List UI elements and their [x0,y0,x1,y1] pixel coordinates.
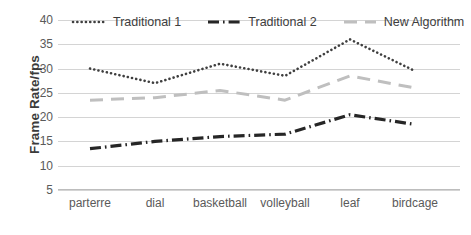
x-axis-tick-labels: parterredialbasketballvolleyballleafbird… [58,196,460,220]
dotted-line-swatch [72,18,106,26]
x-tick-label: parterre [69,196,111,210]
legend-label: New Algorithm [384,15,465,29]
plot-area [58,20,460,190]
y-tick-label: 15 [1,134,53,148]
legend-spacer [317,22,343,23]
legend-label: Traditional 2 [248,15,316,29]
y-tick-label: 25 [1,86,53,100]
legend-label: Traditional 1 [113,15,181,29]
y-tick-label: 35 [1,37,53,51]
y-axis-tick-labels: 403530252015105 [0,0,53,235]
legend-item[interactable]: Traditional 1 [72,15,181,29]
series-line [90,115,415,149]
y-tick-label: 20 [1,110,53,124]
y-tick-label: 5 [1,183,53,197]
series-line [90,76,415,100]
line-chart: Frame Rate/fps 403530252015105 parterred… [0,0,471,235]
series-lines [58,20,460,190]
y-tick-label: 10 [1,159,53,173]
legend-spacer [181,22,207,23]
x-tick-label: dial [146,196,165,210]
y-tick-label: 30 [1,62,53,76]
x-tick-label: volleyball [260,196,309,210]
legend-item[interactable]: New Algorithm [343,15,465,29]
gridline [58,190,460,191]
chart-legend: Traditional 1Traditional 2New Algorithm [72,14,464,30]
dash-dot-line-swatch [207,18,241,26]
x-tick-label: birdcage [392,196,438,210]
x-tick-label: basketball [193,196,247,210]
series-line [90,39,415,83]
x-tick-label: leaf [340,196,359,210]
dashed-line-swatch [343,18,377,26]
y-tick-label: 40 [1,13,53,27]
legend-item[interactable]: Traditional 2 [207,15,316,29]
